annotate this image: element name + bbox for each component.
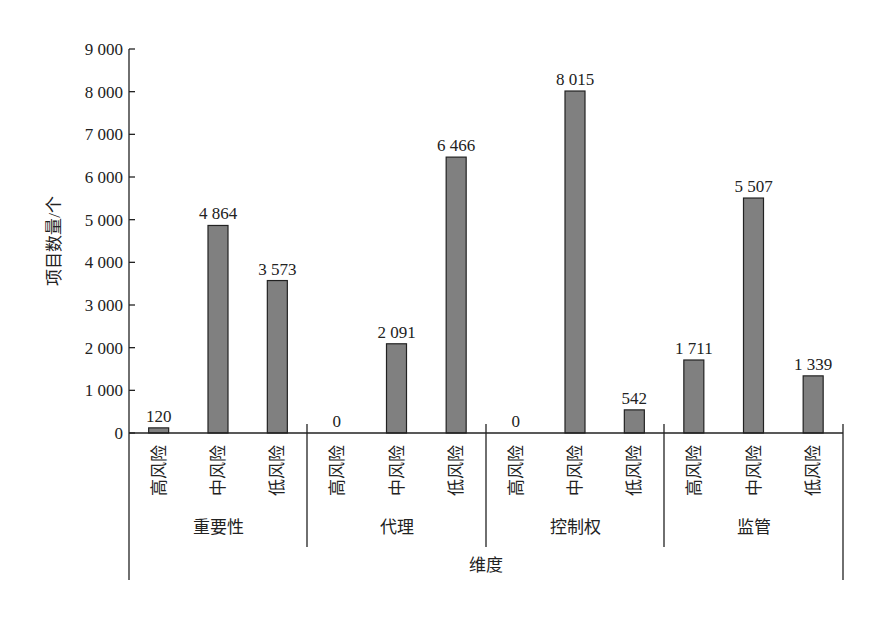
x-axis-label: 维度 (469, 556, 503, 575)
bar-value-label: 3 573 (258, 260, 296, 279)
y-tick-label: 5 000 (85, 211, 123, 230)
group-label: 代理 (380, 518, 414, 537)
bar (446, 157, 466, 433)
sub-category-label: 低风险 (268, 445, 287, 496)
bar-value-label: 4 864 (199, 204, 238, 223)
y-tick-label: 4 000 (85, 253, 123, 272)
bar-value-label: 0 (511, 412, 520, 431)
bars: 120高风险4 864中风险3 573低风险重要性0高风险2 091中风险6 4… (146, 70, 832, 537)
bar (149, 428, 169, 433)
bar-value-label: 120 (146, 407, 172, 426)
sub-category-label: 中风险 (388, 445, 407, 496)
y-tick-label: 8 000 (85, 83, 123, 102)
group-label: 重要性 (193, 518, 244, 537)
sub-category-label: 低风险 (447, 445, 466, 496)
sub-category-label: 高风险 (685, 445, 704, 496)
y-tick-label: 2 000 (85, 339, 123, 358)
bar-value-label: 5 507 (734, 177, 773, 196)
sub-category-label: 低风险 (625, 445, 644, 496)
bar-value-label: 542 (622, 389, 648, 408)
bar-group: 120高风险4 864中风险3 573低风险重要性 (146, 204, 297, 537)
y-tick-label: 1 000 (85, 381, 123, 400)
bar (624, 410, 644, 433)
sub-category-label: 中风险 (745, 445, 764, 496)
bar-chart: 01 0002 0003 0004 0005 0006 0007 0008 00… (0, 0, 886, 618)
bar (684, 360, 704, 433)
sub-category-label: 高风险 (507, 445, 526, 496)
y-axis-label: 项目数量/个 (45, 196, 64, 286)
sub-category-label: 低风险 (804, 445, 823, 496)
y-tick-label: 0 (115, 424, 124, 443)
bar-value-label: 1 711 (675, 339, 713, 358)
sub-category-label: 高风险 (328, 445, 347, 496)
sub-category-label: 中风险 (566, 445, 585, 496)
group-label: 监管 (737, 518, 771, 537)
bar (387, 344, 407, 433)
bar (744, 198, 764, 433)
y-tick-label: 6 000 (85, 168, 123, 187)
bar-group: 1 711高风险5 507中风险1 339低风险监管 (675, 177, 832, 537)
group-label: 控制权 (550, 518, 601, 537)
bar-group: 0高风险8 015中风险542低风险控制权 (507, 70, 647, 537)
y-tick-label: 9 000 (85, 40, 123, 59)
bar-group: 0高风险2 091中风险6 466低风险代理 (328, 136, 475, 537)
sub-category-label: 中风险 (209, 445, 228, 496)
bar-value-label: 2 091 (377, 323, 415, 342)
sub-category-label: 高风险 (150, 445, 169, 496)
bar (565, 91, 585, 433)
y-tick-label: 3 000 (85, 296, 123, 315)
bar-value-label: 0 (333, 412, 342, 431)
bar-value-label: 8 015 (556, 70, 594, 89)
y-tick-label: 7 000 (85, 125, 123, 144)
y-axis: 01 0002 0003 0004 0005 0006 0007 0008 00… (85, 40, 135, 580)
bar (208, 225, 228, 433)
bar (267, 281, 287, 433)
bar (803, 376, 823, 433)
bar-value-label: 6 466 (437, 136, 475, 155)
bar-value-label: 1 339 (794, 355, 832, 374)
